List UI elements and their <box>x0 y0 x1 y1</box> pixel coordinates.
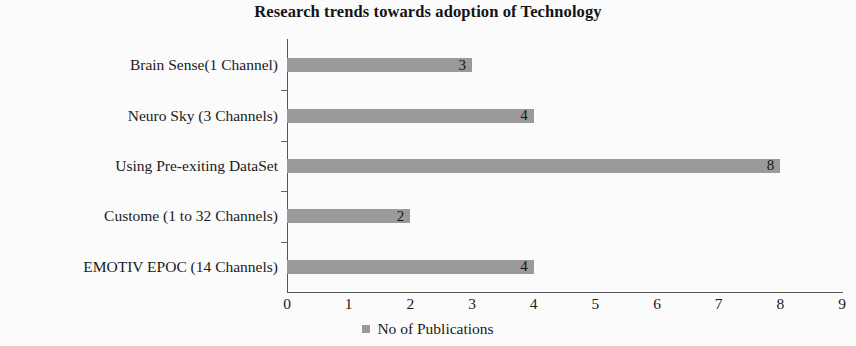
x-axis-tick-label: 2 <box>395 296 425 312</box>
bar-value-label: 8 <box>750 158 774 173</box>
legend-swatch-icon <box>362 325 370 333</box>
bar-row: EMOTIV EPOC (14 Channels)4 <box>0 242 856 292</box>
category-label: Brain Sense(1 Channel) <box>0 57 278 73</box>
category-label: Using Pre-exiting DataSet <box>0 158 278 174</box>
legend-label: No of Publications <box>377 321 493 337</box>
bar-row: Neuro Sky (3 Channels)4 <box>0 90 856 140</box>
x-axis-tick-label: 9 <box>827 296 856 312</box>
category-label: Neuro Sky (3 Channels) <box>0 108 278 124</box>
bar-value-label: 3 <box>442 58 466 73</box>
bar <box>287 159 780 173</box>
x-axis-tick-label: 4 <box>519 296 549 312</box>
bar-value-label: 4 <box>504 259 528 274</box>
x-axis-tick-label: 7 <box>704 296 734 312</box>
bar <box>287 109 534 123</box>
x-axis-tick-label: 1 <box>334 296 364 312</box>
chart-title: Research trends towards adoption of Tech… <box>0 2 856 22</box>
x-axis-tick-label: 6 <box>642 296 672 312</box>
bar <box>287 260 534 274</box>
bar-row: Custome (1 to 32 Channels)2 <box>0 191 856 241</box>
bar-chart-figure: Research trends towards adoption of Tech… <box>0 0 856 346</box>
category-label: EMOTIV EPOC (14 Channels) <box>0 259 278 275</box>
x-axis-line <box>287 292 843 293</box>
category-label: Custome (1 to 32 Channels) <box>0 208 278 224</box>
bar-row: Brain Sense(1 Channel)3 <box>0 40 856 90</box>
bar-value-label: 4 <box>504 108 528 123</box>
x-axis-tick-label: 0 <box>272 296 302 312</box>
x-axis-tick-label: 5 <box>580 296 610 312</box>
bar-row: Using Pre-exiting DataSet8 <box>0 141 856 191</box>
bar-value-label: 2 <box>380 209 404 224</box>
chart-legend: No of Publications <box>0 321 856 337</box>
x-axis-tick-label: 3 <box>457 296 487 312</box>
x-axis-tick-label: 8 <box>765 296 795 312</box>
